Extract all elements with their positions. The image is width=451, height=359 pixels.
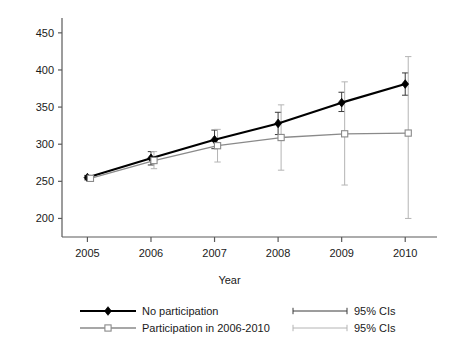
legend-entry-label: Participation in 2006-2010: [142, 322, 270, 334]
ci-whiskers-series-1: [87, 57, 411, 219]
y-tick-label: 350: [36, 101, 54, 113]
data-point-marker: [151, 157, 157, 163]
series-line: [90, 133, 408, 178]
x-tick-label: 2008: [266, 247, 290, 259]
x-tick-label: 2007: [202, 247, 226, 259]
data-point-marker: [338, 98, 345, 107]
x-tick-label: 2006: [139, 247, 163, 259]
axes-group: 2002503003504004502005200620072008200920…: [36, 18, 437, 286]
data-point-marker: [275, 119, 282, 128]
x-tick-label: 2005: [75, 247, 99, 259]
legend-entry-label: 95% CIs: [354, 322, 396, 334]
y-tick-label: 300: [36, 138, 54, 150]
y-tick-label: 200: [36, 212, 54, 224]
legend-entry[interactable]: 95% CIs: [293, 305, 396, 317]
chart-container: 2002503003504004502005200620072008200920…: [0, 0, 451, 359]
legend-marker: [105, 325, 111, 331]
x-tick-label: 2009: [329, 247, 353, 259]
data-group: [84, 57, 411, 219]
data-point-marker: [342, 131, 348, 137]
legend-entry[interactable]: No participation: [80, 305, 218, 317]
legend-entry[interactable]: 95% CIs: [293, 322, 396, 334]
legend-entry[interactable]: Participation in 2006-2010: [80, 322, 270, 334]
y-tick-label: 250: [36, 175, 54, 187]
data-point-marker: [405, 130, 411, 136]
series-line: [87, 84, 405, 178]
y-tick-label: 400: [36, 64, 54, 76]
series-1: [87, 130, 411, 181]
data-point-marker: [278, 134, 284, 140]
data-point-marker: [87, 175, 93, 181]
line-chart: 2002503003504004502005200620072008200920…: [0, 0, 451, 359]
x-tick-label: 2010: [393, 247, 417, 259]
legend-entry-label: 95% CIs: [354, 305, 396, 317]
data-point-marker: [402, 80, 409, 89]
data-point-marker: [214, 143, 220, 149]
x-axis-title: Year: [218, 274, 241, 286]
legend-marker: [105, 307, 112, 316]
legend-entry-label: No participation: [142, 305, 218, 317]
legend-group: No participation95% CIsParticipation in …: [80, 305, 396, 334]
y-tick-label: 450: [36, 27, 54, 39]
